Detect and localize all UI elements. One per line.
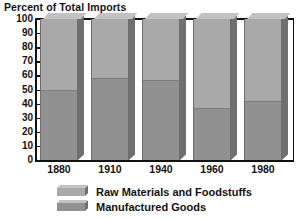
bar-segment-manufactured-goods: [245, 101, 281, 160]
legend-swatch-top: [57, 185, 88, 188]
bar-top-face: [43, 13, 86, 19]
chart-container: Percent of Total Imports 100908070605040…: [0, 0, 301, 218]
x-tick-label: 1940: [137, 163, 185, 175]
bar-top-face: [145, 13, 188, 19]
legend-swatch: [57, 188, 85, 196]
bar-segment-raw-materials: [92, 19, 128, 78]
bar-segment-manufactured-goods: [194, 108, 230, 160]
legend-swatch: [57, 203, 85, 211]
bar-segment-manufactured-goods: [143, 80, 179, 160]
y-tick-label: 20: [22, 127, 33, 137]
y-tick-label: 70: [22, 56, 33, 66]
y-tick-label: 80: [22, 42, 33, 52]
bar-side-face: [78, 14, 84, 160]
x-tick-label: 1880: [35, 163, 83, 175]
bar-column: [193, 19, 231, 160]
bar-side-face: [231, 14, 237, 160]
y-tick-label: 100: [16, 14, 33, 24]
x-tick-label: 1910: [86, 163, 134, 175]
bar-segment-raw-materials: [143, 19, 179, 80]
legend-swatch-face: [57, 188, 85, 196]
bar-segment-raw-materials: [194, 19, 230, 108]
bar-column: [142, 19, 180, 160]
bar-segment-divider: [41, 90, 77, 91]
y-tick-label: 0: [27, 155, 33, 165]
bar-top-face: [94, 13, 137, 19]
bar-segment-divider: [143, 80, 179, 81]
bar-segment-manufactured-goods: [92, 78, 128, 160]
legend-label: Raw Materials and Foodstuffs: [96, 186, 252, 198]
bar-segment-divider: [194, 108, 230, 109]
y-tick-label: 40: [22, 99, 33, 109]
bar-column: [244, 19, 282, 160]
y-tick-label: 60: [22, 70, 33, 80]
bar-column: [40, 19, 78, 160]
bar-column: [91, 19, 129, 160]
legend-label: Manufactured Goods: [96, 201, 206, 213]
bar-segment-manufactured-goods: [41, 90, 77, 161]
bar-segment-raw-materials: [41, 19, 77, 90]
bar-segment-divider: [92, 78, 128, 79]
bar-segment-raw-materials: [245, 19, 281, 101]
plot-area: [36, 19, 294, 160]
y-tick-label: 30: [22, 113, 33, 123]
y-tick-label: 90: [22, 28, 33, 38]
legend-swatch-top: [57, 200, 88, 203]
x-tick-label: 1980: [239, 163, 287, 175]
bar-front-face: [91, 19, 129, 160]
bar-front-face: [142, 19, 180, 160]
y-axis-labels: 1009080706050403020100: [0, 0, 33, 218]
bar-front-face: [40, 19, 78, 160]
legend-swatch-face: [57, 203, 85, 211]
x-axis-line: [35, 160, 294, 162]
bar-side-face: [129, 14, 135, 160]
y-tick-label: 50: [22, 85, 33, 95]
bar-top-face: [247, 13, 290, 19]
bar-side-face: [282, 14, 288, 160]
y-tick-label: 10: [22, 141, 33, 151]
x-tick-label: 1960: [188, 163, 236, 175]
bar-front-face: [193, 19, 231, 160]
bar-front-face: [244, 19, 282, 160]
bar-segment-divider: [245, 101, 281, 102]
bar-top-face: [196, 13, 239, 19]
bar-side-face: [180, 14, 186, 160]
